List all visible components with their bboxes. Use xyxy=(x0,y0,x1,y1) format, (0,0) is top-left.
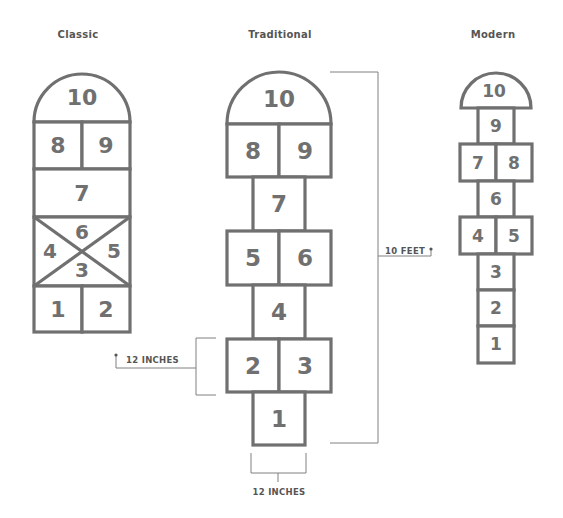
height-label: 10 FEET xyxy=(385,246,425,256)
modern-label-3: 3 xyxy=(490,262,502,282)
title-modern: Modern xyxy=(471,29,516,40)
traditional-label-2: 2 xyxy=(245,353,261,379)
title-classic: Classic xyxy=(58,29,99,40)
traditional-label-8: 8 xyxy=(245,138,261,164)
traditional-court: 10 8 9 7 5 6 4 2 3 1 10 FEET 12 INCHES 1… xyxy=(114,72,432,497)
height-leader-dot xyxy=(429,247,432,250)
traditional-label-10: 10 xyxy=(263,86,295,112)
traditional-label-1: 1 xyxy=(271,406,287,432)
classic-label-1: 1 xyxy=(50,297,65,322)
traditional-label-3: 3 xyxy=(297,353,313,379)
classic-label-10: 10 xyxy=(67,85,98,110)
classic-court: 10 8 9 7 6 4 5 3 1 2 xyxy=(34,74,130,332)
classic-label-5: 5 xyxy=(107,239,121,263)
traditional-label-7: 7 xyxy=(271,191,287,217)
traditional-label-6: 6 xyxy=(297,245,313,271)
modern-label-7: 7 xyxy=(472,153,484,173)
classic-label-7: 7 xyxy=(74,181,89,206)
modern-label-5: 5 xyxy=(508,226,520,246)
square-height-label: 12 INCHES xyxy=(126,355,179,365)
classic-label-2: 2 xyxy=(98,297,113,322)
height-bracket xyxy=(330,72,378,443)
traditional-label-4: 4 xyxy=(271,299,287,325)
modern-label-9: 9 xyxy=(490,116,502,136)
modern-court: 10 9 7 8 6 4 5 3 2 1 xyxy=(460,73,532,363)
hopscotch-diagram: Classic Traditional Modern 10 8 9 7 6 4 … xyxy=(0,0,563,518)
square-width-bracket xyxy=(251,453,306,473)
square-height-leader-dot xyxy=(114,353,117,356)
title-traditional: Traditional xyxy=(248,29,312,40)
modern-label-4: 4 xyxy=(472,226,484,246)
classic-label-6: 6 xyxy=(75,220,89,244)
square-height-bracket xyxy=(196,338,216,395)
modern-label-10: 10 xyxy=(482,81,506,101)
classic-label-8: 8 xyxy=(50,133,65,158)
classic-label-3: 3 xyxy=(75,258,89,282)
traditional-label-5: 5 xyxy=(245,245,261,271)
classic-label-9: 9 xyxy=(98,133,113,158)
modern-label-2: 2 xyxy=(490,298,502,318)
modern-label-6: 6 xyxy=(490,189,502,209)
modern-label-8: 8 xyxy=(508,153,520,173)
classic-label-4: 4 xyxy=(43,239,57,263)
modern-label-1: 1 xyxy=(490,334,502,354)
square-width-label: 12 INCHES xyxy=(252,487,305,497)
traditional-label-9: 9 xyxy=(297,138,313,164)
